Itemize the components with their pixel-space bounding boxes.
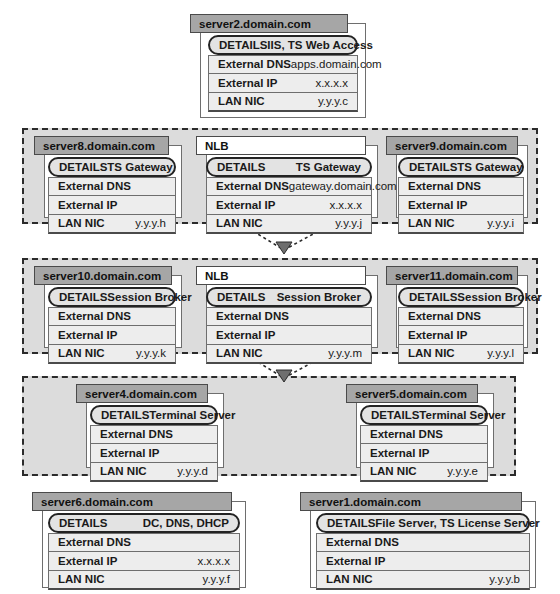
card-rows: DETAILS Session Broker External DNS Exte… bbox=[398, 287, 524, 364]
row-external-ip: External IP bbox=[360, 444, 488, 463]
row-label: DETAILS bbox=[409, 289, 457, 305]
row-lan-nic: LAN NIC y.y.y.h bbox=[48, 215, 176, 234]
card-server8[interactable]: server8.domain.com DETAILS TS Gateway Ex… bbox=[34, 136, 182, 218]
row-label: External IP bbox=[58, 552, 117, 571]
row-external-ip: External IP bbox=[206, 326, 372, 345]
row-lan-nic: LAN NIC y.y.y.m bbox=[206, 345, 372, 364]
row-label: External DNS bbox=[408, 307, 481, 326]
card-title-server2: server2.domain.com bbox=[190, 14, 348, 33]
row-lan-nic: LAN NIC y.y.y.j bbox=[206, 215, 372, 234]
row-label: LAN NIC bbox=[216, 344, 263, 363]
card-rows: DETAILS IIS, TS Web Access External DNS … bbox=[208, 35, 358, 112]
row-value: y.y.y.h bbox=[135, 214, 166, 233]
row-label: External DNS bbox=[100, 425, 173, 444]
card-nlb-gateway[interactable]: NLB DETAILS TS Gateway External DNS gate… bbox=[196, 136, 378, 218]
row-value: Session Broker bbox=[457, 289, 541, 305]
card-title-server8: server8.domain.com bbox=[34, 136, 169, 155]
row-label: External IP bbox=[58, 196, 117, 215]
card-title-server6: server6.domain.com bbox=[32, 492, 232, 511]
row-lan-nic: LAN NIC y.y.y.f bbox=[48, 571, 240, 590]
row-details: DETAILS Session Broker bbox=[206, 287, 372, 307]
row-value: y.y.y.m bbox=[328, 344, 362, 363]
row-label: LAN NIC bbox=[218, 92, 265, 111]
row-value: TS Gateway bbox=[107, 159, 172, 175]
card-rows: DETAILS TS Gateway External DNS External… bbox=[48, 157, 176, 234]
card-rows: DETAILS Terminal Server External DNS Ext… bbox=[360, 405, 488, 482]
row-lan-nic: LAN NIC y.y.y.k bbox=[48, 345, 176, 364]
row-label: DETAILS bbox=[327, 515, 375, 531]
row-details: DETAILS Terminal Server bbox=[90, 405, 218, 425]
row-label: DETAILS bbox=[217, 159, 265, 175]
card-title-server5: server5.domain.com bbox=[346, 384, 478, 403]
row-value: x.x.x.x bbox=[329, 196, 362, 215]
card-server11[interactable]: server11.domain.com DETAILS Session Brok… bbox=[386, 266, 528, 348]
row-value: IIS, TS Web Access bbox=[267, 37, 372, 53]
card-title-server4: server4.domain.com bbox=[76, 384, 208, 403]
row-details: DETAILS IIS, TS Web Access bbox=[208, 35, 358, 55]
card-server4[interactable]: server4.domain.com DETAILS Terminal Serv… bbox=[76, 384, 224, 468]
row-label: DETAILS bbox=[59, 515, 107, 531]
row-label: External IP bbox=[408, 196, 467, 215]
row-label: DETAILS bbox=[59, 289, 107, 305]
row-label: External DNS bbox=[408, 177, 481, 196]
row-label: External IP bbox=[58, 326, 117, 345]
card-rows: DETAILS Session Broker External DNS Exte… bbox=[206, 287, 372, 364]
row-value: apps.domain.com bbox=[291, 55, 382, 74]
card-title-nlb-session-broker: NLB bbox=[196, 266, 366, 285]
row-label: DETAILS bbox=[371, 407, 419, 423]
row-external-ip: External IP x.x.x.x bbox=[206, 196, 372, 215]
row-label: External DNS bbox=[58, 307, 131, 326]
card-title-server9: server9.domain.com bbox=[386, 136, 518, 155]
row-details: DETAILS Terminal Server bbox=[360, 405, 488, 425]
card-server1[interactable]: server1.domain.com DETAILS File Server, … bbox=[300, 492, 536, 588]
row-value: Session Broker bbox=[277, 289, 361, 305]
row-value: File Server, TS License Server bbox=[375, 515, 539, 531]
card-nlb-session-broker[interactable]: NLB DETAILS Session Broker External DNS … bbox=[196, 266, 378, 348]
row-label: External IP bbox=[326, 552, 385, 571]
row-label: LAN NIC bbox=[326, 570, 373, 589]
row-external-dns: External DNS bbox=[48, 177, 176, 196]
row-label: External IP bbox=[370, 444, 429, 463]
row-label: External DNS bbox=[216, 177, 289, 196]
row-value: y.y.y.c bbox=[318, 92, 348, 111]
row-external-ip: External IP bbox=[90, 444, 218, 463]
card-rows: DETAILS DC, DNS, DHCP External DNS Exter… bbox=[48, 513, 240, 590]
row-lan-nic: LAN NIC y.y.y.c bbox=[208, 93, 358, 112]
row-value: y.y.y.e bbox=[447, 462, 478, 481]
row-details: DETAILS TS Gateway bbox=[206, 157, 372, 177]
card-server10[interactable]: server10.domain.com DETAILS Session Brok… bbox=[34, 266, 182, 348]
card-title-nlb-gateway: NLB bbox=[196, 136, 366, 155]
card-title-server1: server1.domain.com bbox=[300, 492, 522, 511]
row-value: y.y.y.i bbox=[487, 214, 514, 233]
row-value: y.y.y.d bbox=[177, 462, 208, 481]
card-server5[interactable]: server5.domain.com DETAILS Terminal Serv… bbox=[346, 384, 494, 468]
row-label: LAN NIC bbox=[58, 570, 105, 589]
row-details: DETAILS DC, DNS, DHCP bbox=[48, 513, 240, 533]
row-value: y.y.y.j bbox=[335, 214, 362, 233]
row-label: External DNS bbox=[216, 307, 289, 326]
row-label: DETAILS bbox=[409, 159, 457, 175]
row-external-dns: External DNS bbox=[398, 177, 524, 196]
row-label: DETAILS bbox=[101, 407, 149, 423]
row-label: DETAILS bbox=[219, 37, 267, 53]
row-label: External IP bbox=[218, 74, 277, 93]
row-lan-nic: LAN NIC y.y.y.b bbox=[316, 571, 530, 590]
card-rows: DETAILS Terminal Server External DNS Ext… bbox=[90, 405, 218, 482]
card-server9[interactable]: server9.domain.com DETAILS TS Gateway Ex… bbox=[386, 136, 528, 218]
row-external-dns: External DNS bbox=[48, 533, 240, 552]
row-details: DETAILS File Server, TS License Server bbox=[316, 513, 530, 533]
row-value: y.y.y.b bbox=[489, 570, 520, 589]
card-server2[interactable]: server2.domain.com DETAILS IIS, TS Web A… bbox=[190, 14, 366, 118]
row-label: External IP bbox=[100, 444, 159, 463]
card-server6[interactable]: server6.domain.com DETAILS DC, DNS, DHCP… bbox=[32, 492, 246, 588]
row-value: Session Broker bbox=[107, 289, 191, 305]
row-label: LAN NIC bbox=[58, 344, 105, 363]
row-lan-nic: LAN NIC y.y.y.d bbox=[90, 463, 218, 482]
row-label: DETAILS bbox=[217, 289, 265, 305]
row-external-dns: External DNS bbox=[48, 307, 176, 326]
card-title-server11: server11.domain.com bbox=[386, 266, 518, 285]
card-rows: DETAILS TS Gateway External DNS External… bbox=[398, 157, 524, 234]
row-external-dns: External DNS bbox=[206, 307, 372, 326]
row-value: y.y.y.l bbox=[487, 344, 514, 363]
row-external-ip: External IP x.x.x.x bbox=[48, 552, 240, 571]
